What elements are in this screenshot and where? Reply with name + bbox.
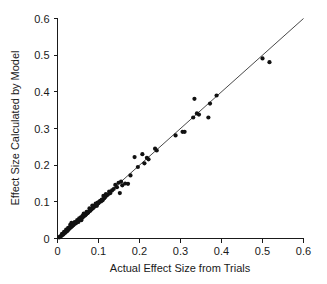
data-point bbox=[140, 152, 144, 156]
data-point bbox=[155, 148, 159, 152]
x-tick-label: 0.2 bbox=[132, 245, 147, 257]
x-tick-label: 0 bbox=[54, 245, 60, 257]
y-tick-label: 0.4 bbox=[34, 86, 49, 98]
y-tick-label: 0.1 bbox=[34, 196, 49, 208]
data-point bbox=[115, 185, 119, 189]
data-point bbox=[192, 97, 196, 101]
x-axis-title: Actual Effect Size from Trials bbox=[110, 262, 251, 274]
y-tick-label: 0 bbox=[43, 233, 49, 245]
data-point bbox=[214, 93, 218, 97]
data-point bbox=[173, 133, 177, 137]
y-tick-label: 0.3 bbox=[34, 123, 49, 135]
data-point bbox=[191, 115, 195, 119]
x-tick-label: 0.4 bbox=[214, 245, 229, 257]
data-point bbox=[146, 157, 150, 161]
data-point bbox=[197, 112, 201, 116]
data-point bbox=[136, 165, 140, 169]
y-tick-label: 0.5 bbox=[34, 49, 49, 61]
data-points bbox=[57, 56, 272, 239]
y-axis-title: Effect Size Calculated by Model bbox=[9, 50, 21, 205]
y-tick-label: 0.2 bbox=[34, 159, 49, 171]
x-tick-label: 0.3 bbox=[173, 245, 188, 257]
data-point bbox=[183, 130, 187, 134]
data-point bbox=[260, 56, 264, 60]
scatter-plot-figure: 00.10.20.30.40.50.6 00.10.20.30.40.50.6 … bbox=[0, 0, 327, 284]
chart-canvas: 00.10.20.30.40.50.6 00.10.20.30.40.50.6 … bbox=[0, 0, 327, 284]
data-point bbox=[267, 60, 271, 64]
x-tick-label: 0.5 bbox=[255, 245, 270, 257]
x-tick-label: 0.1 bbox=[91, 245, 106, 257]
data-point bbox=[128, 173, 132, 177]
x-axis-ticks: 00.10.20.30.40.50.6 bbox=[54, 239, 311, 257]
data-point bbox=[132, 155, 136, 159]
data-point bbox=[208, 101, 212, 105]
data-point bbox=[119, 180, 123, 184]
y-axis-ticks: 00.10.20.30.40.50.6 bbox=[34, 13, 57, 245]
x-tick-label: 0.6 bbox=[296, 245, 311, 257]
y-tick-label: 0.6 bbox=[34, 13, 49, 25]
data-point bbox=[206, 115, 210, 119]
data-point bbox=[118, 191, 122, 195]
data-point bbox=[142, 161, 146, 165]
data-point bbox=[126, 182, 130, 186]
